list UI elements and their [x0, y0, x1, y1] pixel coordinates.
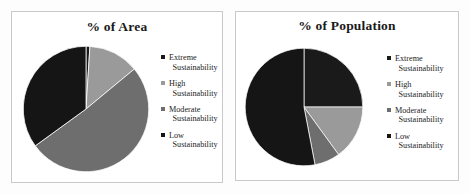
pie-area-svg	[22, 45, 150, 173]
legend-item-high[interactable]: High Sustainability	[161, 79, 223, 98]
legend-label-low-line2: Sustainability	[169, 140, 223, 150]
legend-item-low[interactable]: Low Sustainability	[387, 132, 457, 151]
chart-panel-area: % of Area Extreme Sustainability High Su…	[11, 11, 223, 183]
legend-label-high-line2: Sustainability	[169, 89, 223, 99]
legend-label-moderate-line1: Moderate	[395, 106, 457, 116]
legend-item-extreme[interactable]: Extreme Sustainability	[387, 54, 457, 73]
legend-swatch-high-icon	[161, 81, 165, 85]
legend-label-moderate-line2: Sustainability	[395, 115, 457, 125]
legend-label-extreme-line2: Sustainability	[169, 63, 223, 73]
pie-slice	[304, 48, 363, 107]
legend-label-moderate-line2: Sustainability	[169, 114, 223, 124]
legend-label-extreme-line1: Extreme	[169, 53, 223, 63]
legend-label-high-line1: High	[169, 79, 223, 89]
legend-label-low-line1: Low	[169, 131, 223, 141]
legend-swatch-low-icon	[161, 133, 165, 137]
legend-label-low-line1: Low	[395, 132, 457, 142]
legend-item-moderate[interactable]: Moderate Sustainability	[161, 105, 223, 124]
legend-population: Extreme Sustainability High Sustainabili…	[387, 54, 457, 157]
pie-chart-population	[244, 47, 364, 167]
legend-item-moderate[interactable]: Moderate Sustainability	[387, 106, 457, 125]
legend-item-low[interactable]: Low Sustainability	[161, 131, 223, 150]
legend-swatch-extreme-icon	[161, 55, 165, 59]
chart-title-population: % of Population	[236, 18, 458, 34]
legend-label-extreme-line1: Extreme	[395, 54, 457, 64]
pie-population-svg	[244, 47, 364, 167]
legend-item-high[interactable]: High Sustainability	[387, 80, 457, 99]
chart-panel-population: % of Population Extreme Sustainability H…	[235, 11, 459, 181]
legend-item-extreme[interactable]: Extreme Sustainability	[161, 53, 223, 72]
pie-chart-area	[22, 45, 150, 173]
legend-label-high-line2: Sustainability	[395, 90, 457, 100]
legend-label-extreme-line2: Sustainability	[395, 64, 457, 74]
legend-label-low-line2: Sustainability	[395, 141, 457, 151]
legend-swatch-extreme-icon	[387, 56, 391, 60]
chart-title-area: % of Area	[12, 19, 222, 35]
legend-label-moderate-line1: Moderate	[169, 105, 223, 115]
legend-area: Extreme Sustainability High Sustainabili…	[161, 53, 223, 156]
legend-swatch-moderate-icon	[161, 107, 165, 111]
legend-swatch-moderate-icon	[387, 108, 391, 112]
legend-swatch-high-icon	[387, 82, 391, 86]
figure-canvas: % of Area Extreme Sustainability High Su…	[0, 0, 470, 194]
legend-label-high-line1: High	[395, 80, 457, 90]
legend-swatch-low-icon	[387, 134, 391, 138]
